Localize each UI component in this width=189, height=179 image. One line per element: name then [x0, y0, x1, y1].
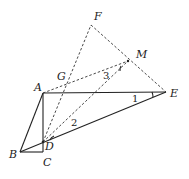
- angle-3-label: 3: [103, 70, 109, 81]
- label-e: E: [169, 87, 178, 100]
- angle-1-arc: [152, 92, 153, 97]
- segment-be: [20, 92, 166, 152]
- angle-1-label: 1: [132, 93, 138, 104]
- segment-am: [43, 61, 128, 93]
- label-f: F: [93, 10, 102, 23]
- point-d-dot: [42, 141, 45, 144]
- label-m: M: [135, 48, 148, 61]
- segment-ab: [20, 93, 43, 152]
- segment-ae: [43, 92, 166, 93]
- angle-3-arc: [120, 66, 121, 71]
- label-b: B: [8, 148, 17, 161]
- label-a: A: [33, 81, 42, 94]
- segment-fe: [91, 25, 166, 92]
- label-d: D: [44, 140, 54, 153]
- label-g: G: [57, 70, 66, 83]
- angle-2-label: 2: [71, 117, 77, 128]
- geometry-diagram: A B C D E F G M 1 2 3: [0, 0, 189, 179]
- point-m-dot: [127, 60, 129, 62]
- segment-df: [43, 25, 91, 142]
- segment-dm: [43, 61, 128, 142]
- label-c: C: [43, 156, 52, 169]
